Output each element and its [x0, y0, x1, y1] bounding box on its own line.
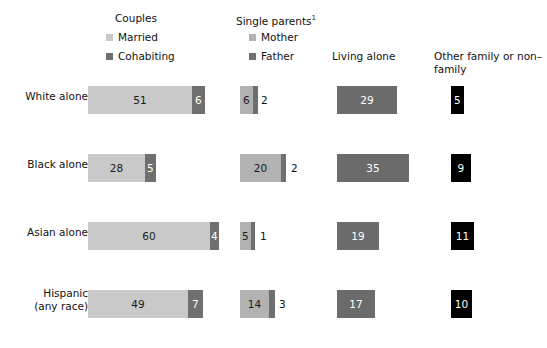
bar-value-father-black-alone: 2	[291, 154, 298, 182]
bar-value: 5	[242, 231, 249, 242]
row-label-hispanic: Hispanic (any race)	[2, 287, 88, 312]
bar-mother-asian-alone: 5	[240, 222, 251, 250]
bar-living-alone-hispanic: 17	[337, 290, 375, 318]
bar-cohabiting-hispanic: 7	[188, 290, 203, 318]
bar-value: 10	[455, 299, 469, 310]
legend-label-cohabiting: Cohabiting	[118, 50, 175, 62]
legend-label-father: Father	[261, 50, 294, 62]
row-label-line1: Asian alone	[2, 226, 88, 239]
bar-value: 35	[366, 163, 380, 174]
bar-value: 6	[243, 95, 250, 106]
bar-value: 60	[142, 231, 156, 242]
bar-value: 19	[351, 231, 365, 242]
bar-cohabiting-white-alone: 6	[192, 86, 205, 114]
bar-value: 49	[131, 299, 145, 310]
row-label-black-alone: Black alone	[2, 158, 88, 171]
bar-value: 9	[458, 163, 465, 174]
row-label-line1: Hispanic	[2, 287, 88, 300]
legend-item-father: Father	[249, 50, 294, 62]
bar-value-father-asian-alone: 1	[260, 222, 267, 250]
bar-married-white-alone: 51	[88, 86, 192, 114]
bar-value-father-hispanic: 3	[279, 290, 286, 318]
legend-label-married: Married	[118, 31, 158, 43]
column-header-living-alone: Living alone	[332, 50, 395, 63]
bar-married-hispanic: 49	[88, 290, 188, 318]
bar-value: 6	[195, 95, 202, 106]
bar-cohabiting-black-alone: 5	[145, 154, 156, 182]
bar-value: 17	[349, 299, 363, 310]
bar-living-alone-black-alone: 35	[337, 154, 409, 182]
bar-value: 5	[147, 163, 154, 174]
bar-value: 4	[211, 231, 218, 242]
legend-swatch-married-icon	[106, 34, 113, 41]
bar-father-asian-alone	[251, 222, 255, 250]
bar-other-asian-alone: 11	[451, 222, 474, 250]
column-header-couples: Couples	[115, 12, 157, 25]
bar-value: 29	[360, 95, 374, 106]
column-header-single-parents-label: Single parents	[236, 15, 312, 27]
bar-value: 14	[248, 299, 262, 310]
legend-swatch-cohabiting-icon	[106, 53, 113, 60]
bar-father-black-alone	[281, 154, 286, 182]
bar-other-hispanic: 10	[451, 290, 472, 318]
bar-value: 11	[456, 231, 470, 242]
column-header-other-family-label: Other family or non–family	[434, 50, 542, 75]
bar-value: 51	[133, 95, 147, 106]
bar-mother-hispanic: 14	[240, 290, 269, 318]
legend-item-cohabiting: Cohabiting	[106, 50, 175, 62]
bar-living-alone-asian-alone: 19	[337, 222, 379, 250]
bar-mother-black-alone: 20	[240, 154, 281, 182]
bar-mother-white-alone: 6	[240, 86, 253, 114]
bar-living-alone-white-alone: 29	[337, 86, 397, 114]
row-label-line2: (any race)	[2, 300, 88, 313]
row-label-asian-alone: Asian alone	[2, 226, 88, 239]
legend-label-mother: Mother	[261, 31, 298, 43]
column-header-couples-label: Couples	[115, 12, 157, 24]
bar-value-father-white-alone: 2	[261, 86, 268, 114]
column-header-single-parents: Single parents1	[236, 12, 316, 27]
column-header-other-family: Other family or non–family	[434, 50, 547, 75]
column-header-living-alone-label: Living alone	[332, 50, 395, 62]
row-label-line1: White alone	[2, 90, 88, 103]
bar-other-white-alone: 5	[451, 86, 464, 114]
legend-item-mother: Mother	[249, 31, 298, 43]
bar-other-black-alone: 9	[451, 154, 471, 182]
legend-swatch-father-icon	[249, 53, 256, 60]
bar-cohabiting-asian-alone: 4	[210, 222, 219, 250]
legend-swatch-mother-icon	[249, 34, 256, 41]
row-label-white-alone: White alone	[2, 90, 88, 103]
legend-item-married: Married	[106, 31, 158, 43]
row-label-line1: Black alone	[2, 158, 88, 171]
footnote-marker: 1	[312, 14, 316, 22]
bar-married-asian-alone: 60	[88, 222, 210, 250]
bar-father-hispanic	[269, 290, 275, 318]
bar-value: 20	[254, 163, 268, 174]
bar-value: 5	[454, 95, 461, 106]
bar-value: 7	[192, 299, 199, 310]
bar-married-black-alone: 28	[88, 154, 145, 182]
bar-father-white-alone	[253, 86, 258, 114]
bar-value: 28	[110, 163, 124, 174]
